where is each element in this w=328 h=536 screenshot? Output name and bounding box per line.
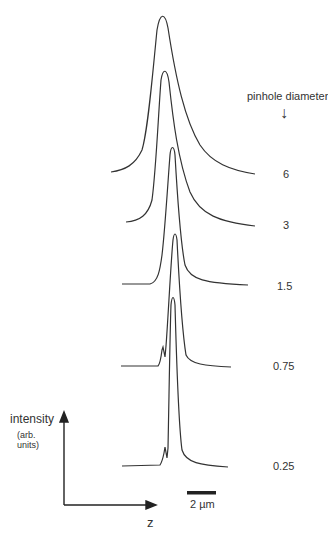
legend-title: pinhole diameter <box>247 90 328 102</box>
scale-bar <box>187 491 216 495</box>
y-axis-unit-2: units) <box>17 440 39 450</box>
x-axis-arrow-icon <box>146 501 156 509</box>
series-label-6: 6 <box>283 168 289 180</box>
scale-bar-label: 2 µm <box>190 498 215 510</box>
y-axis-arrow-icon <box>60 412 68 422</box>
down-arrow-icon: ↓ <box>280 104 288 122</box>
curves-plot <box>0 0 328 536</box>
curve-0.25 <box>122 298 228 468</box>
y-axis-unit-1: (arb. <box>17 430 36 440</box>
curve-3 <box>126 71 255 226</box>
x-axis-label: z <box>147 515 154 530</box>
series-label-3: 3 <box>283 219 289 231</box>
curve-6 <box>111 16 255 174</box>
series-label-0.75: 0.75 <box>273 360 294 372</box>
y-axis-label: intensity <box>10 412 54 426</box>
series-label-1.5: 1.5 <box>277 280 292 292</box>
figure: pinhole diameter ↓ 6 3 1.5 0.75 0.25 int… <box>0 0 328 536</box>
series-label-0.25: 0.25 <box>273 460 294 472</box>
